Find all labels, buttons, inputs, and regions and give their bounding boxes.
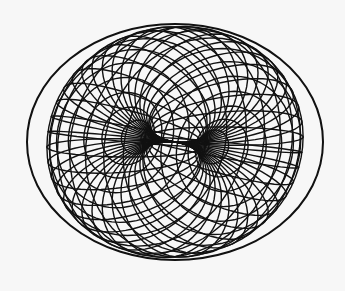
wireframe-surface	[0, 0, 345, 291]
figure-canvas	[0, 0, 345, 291]
